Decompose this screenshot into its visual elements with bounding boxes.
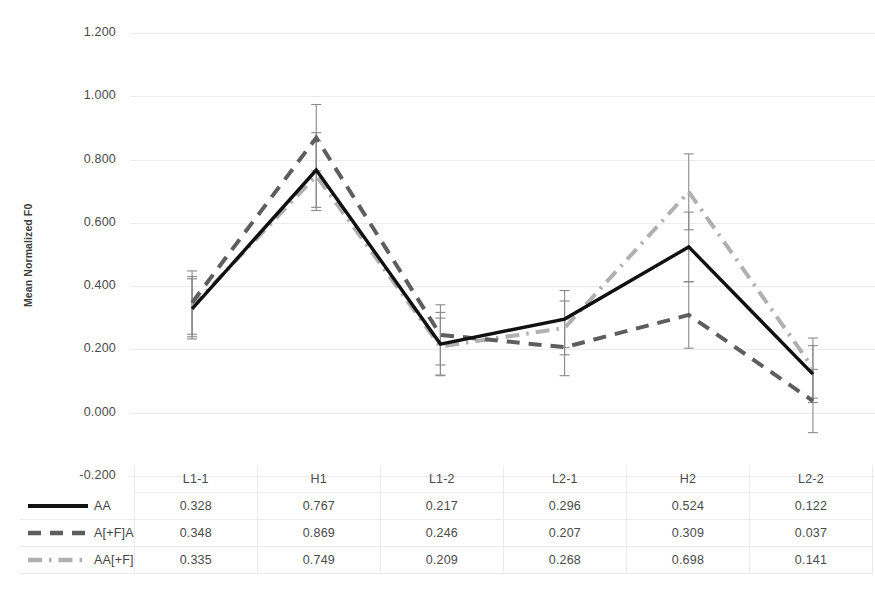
y-axis-tick-label: 0.000 (0, 405, 116, 419)
table-cell-value: 0.749 (257, 547, 380, 574)
table-cell-value: 0.217 (380, 493, 503, 520)
table-row: AA0.3280.7670.2170.2960.5240.122 (20, 493, 873, 520)
table-cell-value: 0.335 (134, 547, 257, 574)
x-axis-category-label: H1 (257, 466, 380, 493)
table-cell-value: 0.698 (626, 547, 749, 574)
table-header-row: L1-1H1L1-2L2-1H2L2-2 (20, 466, 873, 493)
table-cell-value: 0.141 (749, 547, 872, 574)
legend-label: AA (94, 499, 111, 513)
table-row: A[+F]A0.3480.8690.2460.2070.3090.037 (20, 520, 873, 547)
error-bars-afa (187, 105, 818, 433)
legend-entry[interactable]: A[+F]A (20, 520, 134, 547)
error-bars-aa (187, 133, 818, 403)
table-cell-value: 0.348 (134, 520, 257, 547)
y-axis-tick-label: 1.200 (0, 25, 116, 39)
table-cell-value: 0.328 (134, 493, 257, 520)
legend-label: A[+F]A (94, 526, 134, 540)
series-line-afa (192, 138, 813, 401)
series-line-aa (192, 170, 813, 374)
table-corner-cell (20, 466, 134, 493)
table-cell-value: 0.209 (380, 547, 503, 574)
table-cell-value: 0.296 (503, 493, 626, 520)
x-axis-category-label: L1-2 (380, 466, 503, 493)
table-row: AA[+F]0.3350.7490.2090.2680.6980.141 (20, 547, 873, 574)
y-axis-tick-label: 0.800 (0, 152, 116, 166)
y-axis-tick-label: 0.400 (0, 278, 116, 292)
table-cell-value: 0.767 (257, 493, 380, 520)
legend-line-swatch (28, 553, 88, 567)
table-cell-value: 0.309 (626, 520, 749, 547)
legend-entry[interactable]: AA (20, 493, 134, 520)
y-axis-tick-label: 1.000 (0, 88, 116, 102)
legend-label: AA[+F] (94, 553, 134, 567)
plot-area (130, 33, 875, 476)
error-bars-aaf (187, 141, 818, 398)
table-cell-value: 0.268 (503, 547, 626, 574)
legend-line-swatch (28, 499, 88, 513)
table-cell-value: 0.037 (749, 520, 872, 547)
table-cell-value: 0.869 (257, 520, 380, 547)
series-lines-layer (130, 33, 875, 476)
table-cell-value: 0.246 (380, 520, 503, 547)
table-cell-value: 0.122 (749, 493, 872, 520)
legend-line-swatch (28, 526, 88, 540)
y-axis-tick-label: 0.600 (0, 215, 116, 229)
y-axis-tick-label: 0.200 (0, 341, 116, 355)
x-axis-category-label: L2-1 (503, 466, 626, 493)
table-cell-value: 0.207 (503, 520, 626, 547)
x-axis-category-label: L1-1 (134, 466, 257, 493)
legend-entry[interactable]: AA[+F] (20, 547, 134, 574)
x-axis-category-label: H2 (626, 466, 749, 493)
data-table: L1-1H1L1-2L2-1H2L2-2AA0.3280.7670.2170.2… (20, 466, 873, 574)
x-axis-category-label: L2-2 (749, 466, 872, 493)
table-cell-value: 0.524 (626, 493, 749, 520)
